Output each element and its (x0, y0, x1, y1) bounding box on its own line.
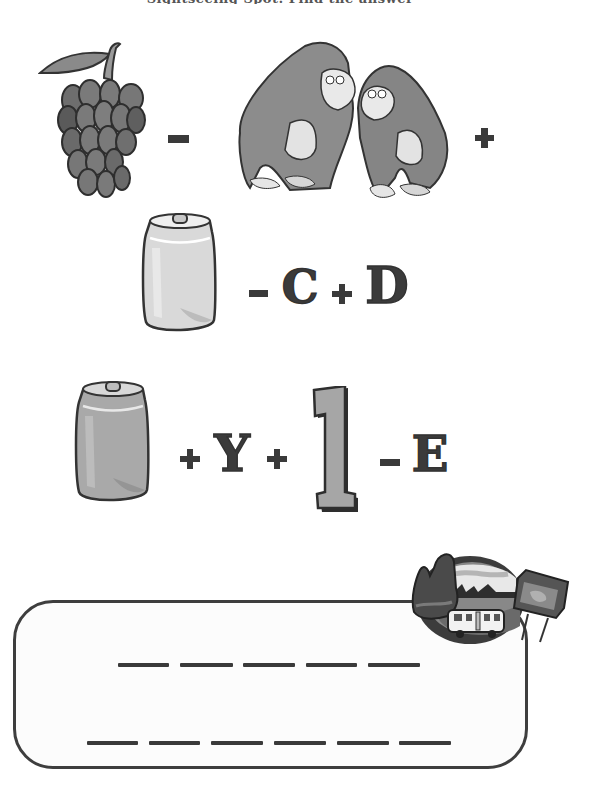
answer-blank[interactable] (180, 663, 233, 667)
letter-e: E (410, 428, 450, 480)
tin-can-picture (73, 376, 153, 508)
minus-operator (249, 290, 268, 297)
answer-blank[interactable] (306, 663, 357, 667)
plus-operator (332, 284, 352, 304)
grapes-picture (38, 38, 158, 203)
number-one-picture (310, 386, 362, 514)
page-title: Sightseeing Spot: Find the answer (80, 0, 480, 4)
plus-operator (475, 128, 494, 148)
answer-blank[interactable] (211, 741, 263, 745)
letter-y: Y (210, 428, 254, 480)
answer-blank[interactable] (337, 741, 389, 745)
answer-blank[interactable] (274, 741, 326, 745)
answer-blank[interactable] (149, 741, 200, 745)
letter-d: D (365, 260, 409, 312)
plus-operator (267, 449, 287, 469)
silver-can-picture (140, 208, 220, 338)
answer-blank[interactable] (243, 663, 295, 667)
answer-blank[interactable] (118, 663, 169, 667)
plus-operator (180, 449, 200, 469)
road-trip-badge-icon (408, 548, 574, 648)
answer-blank[interactable] (368, 663, 420, 667)
answer-blank[interactable] (87, 741, 138, 745)
answer-blank[interactable] (399, 741, 451, 745)
gorillas-picture (230, 38, 452, 203)
minus-operator (380, 459, 400, 466)
minus-operator (168, 135, 189, 143)
letter-c: C (281, 262, 319, 312)
